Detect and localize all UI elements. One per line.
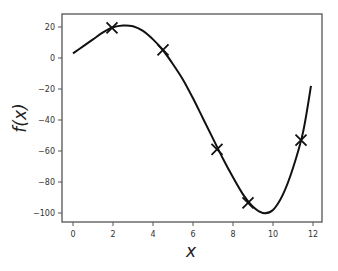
x-tick-label: 0 [70,230,75,239]
y-tick-label: −40 [38,116,55,125]
x-tick-label: 12 [308,230,318,239]
x-marker-icon [158,44,169,55]
y-tick-label: −60 [38,147,55,156]
y-tick-label: −80 [38,178,55,187]
x-tick-label: 8 [230,230,235,239]
x-tick-label: 10 [268,230,278,239]
x-tick-label: 2 [110,230,115,239]
x-marker-icon [107,22,118,33]
x-tick-label: 4 [150,230,155,239]
x-tick-label: 6 [190,230,195,239]
y-tick-label: 20 [45,23,55,32]
y-axis-label: f(x) [10,103,30,132]
x-axis-label: x [185,241,197,261]
chart: 024681012200−20−40−60−80−100xf(x) [0,0,338,271]
x-marker-icon [243,197,254,208]
y-tick-label: 0 [50,54,55,63]
plot-frame [62,14,322,222]
curve-line [73,25,311,213]
y-tick-label: −20 [38,85,55,94]
y-tick-label: −100 [33,209,55,218]
